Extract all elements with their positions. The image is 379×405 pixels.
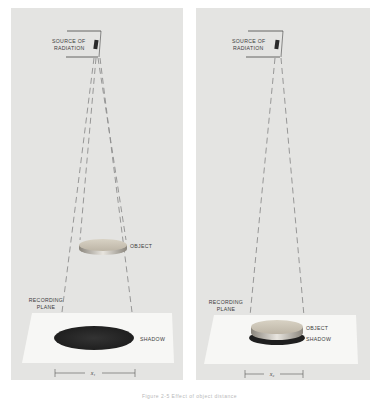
figure-caption: Figure 2-5 Effect of object distance bbox=[0, 393, 379, 399]
object-label: OBJECT bbox=[306, 325, 329, 331]
panel-right: SOURCE OF RADIATION RECORDING PLANE OBJE… bbox=[196, 8, 370, 380]
shadow-label: SHADOW bbox=[140, 336, 165, 342]
object-label: OBJECT bbox=[130, 243, 153, 249]
dimension-x1-label: x₁ bbox=[90, 370, 96, 376]
radiation-shadow-figure: SOURCE OF RADIATION OBJECT RECORDING PLA… bbox=[0, 0, 379, 405]
recording-plane-label-line1: RECORDING bbox=[29, 297, 63, 303]
panel-left: SOURCE OF RADIATION OBJECT RECORDING PLA… bbox=[11, 8, 183, 380]
source-label-line1: SOURCE OF bbox=[232, 38, 266, 44]
dimension-x2-label: x₂ bbox=[269, 371, 275, 377]
shadow bbox=[54, 326, 134, 350]
source-label-line2: RADIATION bbox=[54, 45, 85, 51]
recording-plane-label-line2: PLANE bbox=[37, 304, 56, 310]
source-label-line2: RADIATION bbox=[233, 45, 264, 51]
shadow-label: SHADOW bbox=[306, 336, 331, 342]
source-label-line1: SOURCE OF bbox=[52, 38, 86, 44]
recording-plane-label-line2: PLANE bbox=[217, 306, 236, 312]
recording-plane-label-line1: RECORDING bbox=[209, 299, 243, 305]
